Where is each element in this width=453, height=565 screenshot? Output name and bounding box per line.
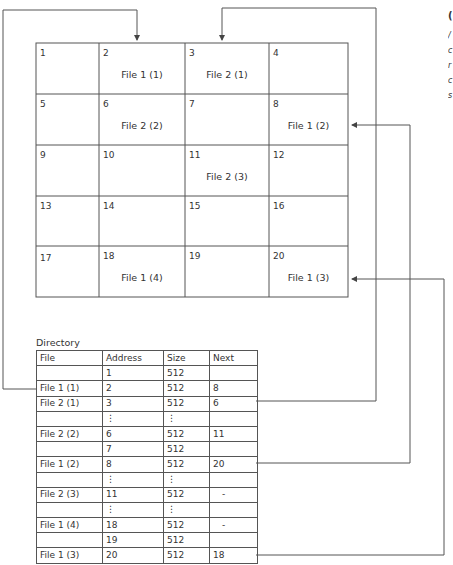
cell-size: 512 — [164, 487, 210, 502]
block-number: 6 — [103, 99, 109, 109]
cell-next — [210, 442, 258, 457]
cell-address: 6 — [103, 426, 164, 441]
block-number: 7 — [189, 99, 195, 109]
cell-file: File 1 (4) — [37, 518, 103, 533]
clipped-text-fragment: s — [448, 91, 453, 100]
cell-file: File 2 (2) — [37, 426, 103, 441]
cell-file: File 1 (3) — [37, 548, 103, 563]
disk-block: 14 — [99, 196, 185, 246]
disk-block: 16 — [269, 196, 348, 246]
block-number: 8 — [273, 99, 279, 109]
cell-file: File 2 (3) — [37, 487, 103, 502]
disk-block: 20 File 1 (3) — [269, 246, 348, 297]
clipped-text-fragment: r — [448, 61, 453, 70]
cell-size: 512 — [164, 442, 210, 457]
table-row: File 2 (1) 3 512 6 — [37, 396, 258, 411]
clipped-text-fragment: / — [448, 31, 453, 40]
cell-size: 512 — [164, 366, 210, 381]
cell-size: 512 — [164, 533, 210, 548]
disk-block: 6 File 2 (2) — [99, 94, 185, 145]
cell-next — [210, 472, 258, 487]
disk-block: 3 File 2 (1) — [185, 43, 269, 94]
block-number: 4 — [273, 48, 279, 58]
block-number: 3 — [189, 48, 195, 58]
cell-file — [37, 442, 103, 457]
block-number: 5 — [40, 99, 46, 109]
table-row: 19 512 — [37, 533, 258, 548]
block-file-label: File 1 (2) — [269, 120, 348, 131]
disk-block: 17 — [36, 246, 99, 297]
block-number: 18 — [103, 251, 114, 261]
disk-block: 18 File 1 (4) — [99, 246, 185, 297]
block-number: 16 — [273, 201, 284, 211]
cell-size: ⋮ — [164, 472, 210, 487]
block-number: 19 — [189, 251, 200, 261]
cell-file — [37, 411, 103, 426]
cell-file: File 1 (1) — [37, 381, 103, 396]
block-number: 17 — [40, 253, 51, 263]
block-file-label: File 2 (1) — [185, 69, 269, 80]
clipped-heading-fragment: ( — [448, 10, 453, 21]
column-header-address: Address — [103, 351, 164, 366]
cell-next — [210, 366, 258, 381]
cell-file — [37, 366, 103, 381]
block-number: 1 — [40, 48, 46, 58]
cell-next: 18 — [210, 548, 258, 563]
block-number: 13 — [40, 201, 51, 211]
cell-next: 8 — [210, 381, 258, 396]
disk-block: 5 — [36, 94, 99, 145]
cell-file: File 1 (2) — [37, 457, 103, 472]
cell-size: 512 — [164, 396, 210, 411]
table-row: File 1 (4) 18 512 - — [37, 518, 258, 533]
block-number: 14 — [103, 201, 114, 211]
cell-next: - — [210, 518, 258, 533]
clipped-text-fragment: c — [448, 76, 453, 85]
disk-block: 1 — [36, 43, 99, 94]
disk-block: 11 File 2 (3) — [185, 145, 269, 196]
cell-address: 7 — [103, 442, 164, 457]
block-number: 15 — [189, 201, 200, 211]
cell-address: 2 — [103, 381, 164, 396]
cell-next — [210, 533, 258, 548]
table-row: File 2 (3) 11 512 - — [37, 487, 258, 502]
table-row: File 1 (3) 20 512 18 — [37, 548, 258, 563]
cell-file: File 2 (1) — [37, 396, 103, 411]
cell-address: 8 — [103, 457, 164, 472]
disk-block: 2 File 1 (1) — [99, 43, 185, 94]
block-number: 20 — [273, 251, 284, 261]
block-file-label: File 2 (2) — [99, 120, 185, 131]
cell-address: 18 — [103, 518, 164, 533]
cell-next: 6 — [210, 396, 258, 411]
cell-address: 1 — [103, 366, 164, 381]
cell-address: 19 — [103, 533, 164, 548]
cell-file — [37, 472, 103, 487]
cell-size: 512 — [164, 426, 210, 441]
cell-address: ⋮ — [103, 502, 164, 517]
disk-allocation-diagram: 1 2 File 1 (1) 3 File 2 (1) 4 5 6 File 2… — [0, 0, 453, 565]
table-row: 1 512 — [37, 366, 258, 381]
disk-block: 10 — [99, 145, 185, 196]
cell-next — [210, 411, 258, 426]
block-file-label: File 1 (3) — [269, 272, 348, 283]
cell-address: 20 — [103, 548, 164, 563]
cell-next: - — [210, 487, 258, 502]
table-row: File 2 (2) 6 512 11 — [37, 426, 258, 441]
column-header-file: File — [37, 351, 103, 366]
block-number: 9 — [40, 150, 46, 160]
table-header-row: File Address Size Next — [37, 351, 258, 366]
disk-block: 9 — [36, 145, 99, 196]
disk-block: 19 — [185, 246, 269, 297]
block-number: 2 — [103, 48, 109, 58]
cell-size: 512 — [164, 518, 210, 533]
cell-size: 512 — [164, 381, 210, 396]
disk-block: 8 File 1 (2) — [269, 94, 348, 145]
cell-file — [37, 533, 103, 548]
cell-size: 512 — [164, 548, 210, 563]
directory-title: Directory — [36, 337, 80, 348]
table-row: 7 512 — [37, 442, 258, 457]
cell-file — [37, 502, 103, 517]
cell-size: ⋮ — [164, 502, 210, 517]
table-row: File 1 (1) 2 512 8 — [37, 381, 258, 396]
cell-address: 3 — [103, 396, 164, 411]
cell-next: 11 — [210, 426, 258, 441]
